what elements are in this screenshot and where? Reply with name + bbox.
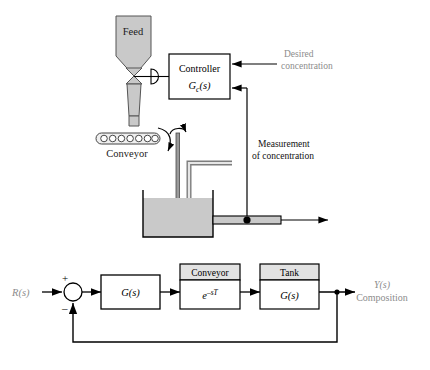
controller-box[interactable] [169,54,230,99]
block-conveyor[interactable]: Conveyor e–sT [180,264,240,309]
process-schematic: Feed Controller Gc(s) Desired concentrat… [96,16,333,237]
block-tank[interactable]: Tank G(s) [260,264,319,309]
feed-nozzle [129,116,139,126]
summing-minus-sign: – [61,302,68,314]
measurement-label-2: of concentration [252,151,314,161]
conveyor-unit: Conveyor [96,128,170,159]
desired-concentration-input: Desired concentration [232,49,333,71]
conveyor-label: Conveyor [106,148,148,159]
block-tank-body-label: G(s) [280,290,299,302]
feed-hopper: Feed [116,16,151,126]
control-system-figure: Feed Controller Gc(s) Desired concentrat… [0,0,430,370]
block-diagram: R(s) + – G(s) Conveyor e–sT [11,264,408,342]
summing-junction-circle[interactable] [64,283,82,301]
output-label-1: Y(s) [374,279,391,291]
hopper-label: Feed [123,26,144,37]
conveyor-exp-power: –sT [206,288,219,297]
tank-liquid [143,198,213,237]
figure-canvas: Feed Controller Gc(s) Desired concentrat… [0,0,430,370]
outlet-pipe [213,216,328,224]
feed-downspout [127,84,141,116]
controller-block[interactable]: Controller Gc(s) [169,54,230,99]
block-tank-header-label: Tank [280,268,299,278]
controller-arg: (s) [199,80,211,92]
controller-title: Controller [179,63,221,74]
measurement-label-1: Measurement [258,139,310,149]
block-conveyor-header-label: Conveyor [191,268,229,278]
concentration-sensor-icon [243,216,250,223]
hopper-body [116,16,151,76]
measurement-feedback-path: Measurement of concentration [232,88,314,222]
desired-concentration-label-1: Desired [284,49,314,59]
output-label-2: Composition [356,292,408,303]
summing-plus-sign: + [62,272,68,284]
block-plant-controller[interactable]: G(s) [101,275,160,309]
input-label: R(s) [11,287,30,299]
desired-concentration-label-2: concentration [281,61,333,71]
block-plant-controller-label: G(s) [121,287,140,299]
summing-junction[interactable]: + – [61,272,82,314]
